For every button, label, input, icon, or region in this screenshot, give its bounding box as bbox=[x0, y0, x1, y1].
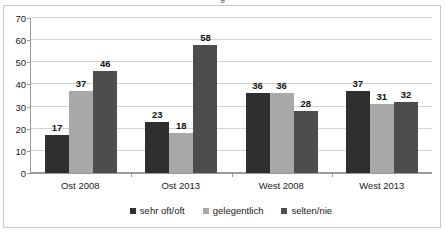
legend-item[interactable]: gelegentlich bbox=[203, 205, 264, 216]
bar[interactable]: 58 bbox=[193, 45, 217, 173]
legend-label: gelegentlich bbox=[213, 205, 264, 216]
y-axis-tick-label: 30 bbox=[15, 101, 26, 112]
bar-slot: 23 bbox=[145, 18, 169, 173]
legend-label: sehr oft/oft bbox=[140, 205, 185, 216]
bar-value-label: 17 bbox=[45, 122, 69, 133]
chart-screenshot: g 010203040506070 1737462318583636283731… bbox=[0, 0, 445, 232]
bar[interactable]: 17 bbox=[45, 135, 69, 173]
bar-value-label: 28 bbox=[294, 98, 318, 109]
bar-group: 373132 bbox=[332, 18, 432, 173]
bar-group: 363628 bbox=[232, 18, 332, 173]
bar[interactable]: 37 bbox=[69, 91, 93, 173]
bar-group: 231858 bbox=[131, 18, 231, 173]
bar-slot: 31 bbox=[370, 18, 394, 173]
bar-value-label: 23 bbox=[145, 109, 169, 120]
chart-legend: sehr oft/oftgelegentlichselten/nie bbox=[30, 205, 432, 216]
bar-value-label: 37 bbox=[69, 78, 93, 89]
y-axis-tick-label: 20 bbox=[15, 123, 26, 134]
bar[interactable]: 32 bbox=[394, 102, 418, 173]
y-axis-tick-label: 40 bbox=[15, 79, 26, 90]
bar-value-label: 32 bbox=[394, 89, 418, 100]
bar-slot: 36 bbox=[270, 18, 294, 173]
bar-group-bars: 363628 bbox=[246, 18, 318, 173]
bar-value-label: 46 bbox=[93, 58, 117, 69]
bar[interactable]: 23 bbox=[145, 122, 169, 173]
x-axis-category-label: West 2013 bbox=[332, 180, 433, 191]
bar[interactable]: 36 bbox=[270, 93, 294, 173]
legend-item[interactable]: selten/nie bbox=[281, 205, 332, 216]
bar-slot: 18 bbox=[169, 18, 193, 173]
plot-area: 010203040506070 173746231858363628373132 bbox=[30, 18, 432, 174]
bar-value-label: 18 bbox=[169, 120, 193, 131]
legend-label: selten/nie bbox=[291, 205, 332, 216]
y-axis-tick-label: 50 bbox=[15, 57, 26, 68]
bar[interactable]: 46 bbox=[93, 71, 117, 173]
bar-slot: 17 bbox=[45, 18, 69, 173]
bar-slot: 32 bbox=[394, 18, 418, 173]
x-axis-category-label: Ost 2008 bbox=[30, 180, 131, 191]
bar[interactable]: 36 bbox=[246, 93, 270, 173]
legend-swatch-icon bbox=[281, 208, 287, 214]
bar[interactable]: 28 bbox=[294, 111, 318, 173]
y-axis-tick-label: 60 bbox=[15, 35, 26, 46]
bar-value-label: 36 bbox=[270, 80, 294, 91]
cut-off-title-remnant: g bbox=[0, 0, 445, 4]
bar-slot: 37 bbox=[346, 18, 370, 173]
y-axis-tick-mark bbox=[27, 173, 31, 174]
y-axis-tick-label: 10 bbox=[15, 145, 26, 156]
bar-slot: 58 bbox=[193, 18, 217, 173]
bar-group-bars: 373132 bbox=[346, 18, 418, 173]
x-axis-category-label: West 2008 bbox=[231, 180, 332, 191]
x-axis-category-label: Ost 2013 bbox=[131, 180, 232, 191]
x-axis-tick-mark bbox=[332, 173, 333, 177]
legend-item[interactable]: sehr oft/oft bbox=[130, 205, 185, 216]
bar-value-label: 37 bbox=[346, 78, 370, 89]
x-axis-tick-mark bbox=[131, 173, 132, 177]
bar-slot: 28 bbox=[294, 18, 318, 173]
bar-group: 173746 bbox=[31, 18, 131, 173]
bar-value-label: 36 bbox=[246, 80, 270, 91]
bar-group-bars: 231858 bbox=[145, 18, 217, 173]
bar-slot: 37 bbox=[69, 18, 93, 173]
x-axis-tick-labels: Ost 2008Ost 2013West 2008West 2013 bbox=[30, 180, 432, 191]
bar-slot: 46 bbox=[93, 18, 117, 173]
bar[interactable]: 18 bbox=[169, 133, 193, 173]
legend-swatch-icon bbox=[130, 208, 136, 214]
y-axis-tick-label: 70 bbox=[15, 13, 26, 24]
bar-value-label: 58 bbox=[193, 32, 217, 43]
bar-slot: 36 bbox=[246, 18, 270, 173]
x-axis-tick-mark bbox=[232, 173, 233, 177]
legend-swatch-icon bbox=[203, 208, 209, 214]
bar-group-bars: 173746 bbox=[45, 18, 117, 173]
bar-groups: 173746231858363628373132 bbox=[31, 18, 432, 173]
y-axis-tick-label: 0 bbox=[21, 168, 26, 179]
bar[interactable]: 31 bbox=[370, 104, 394, 173]
bar[interactable]: 37 bbox=[346, 91, 370, 173]
bar-value-label: 31 bbox=[370, 91, 394, 102]
